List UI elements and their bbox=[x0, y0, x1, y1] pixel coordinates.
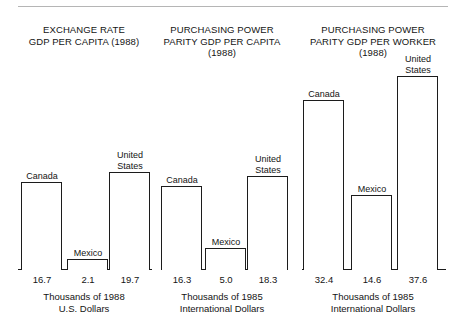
bar-label: Canada bbox=[154, 175, 210, 186]
bar-canada[interactable] bbox=[21, 182, 62, 270]
chart-panel-exchange-rate: EXCHANGE RATE GDP PER CAPITA (1988) Cana… bbox=[8, 0, 160, 330]
bar-mexico[interactable] bbox=[351, 195, 392, 270]
bar-label: Mexico bbox=[198, 237, 254, 248]
bar-label: United States bbox=[240, 154, 296, 175]
bar-canada[interactable] bbox=[161, 186, 202, 270]
bar-canada[interactable] bbox=[303, 100, 344, 270]
bar-label: Mexico bbox=[60, 248, 116, 259]
bar-label: Mexico bbox=[344, 184, 400, 195]
bar-label: United States bbox=[390, 54, 446, 75]
value-label: 19.7 bbox=[102, 274, 158, 285]
bar-label: United States bbox=[102, 150, 158, 171]
bar-united-states[interactable] bbox=[397, 76, 438, 270]
axis-caption: Thousands of 1988 U.S. Dollars bbox=[8, 291, 160, 314]
bar-mexico[interactable] bbox=[205, 248, 246, 270]
bar-label: Canada bbox=[14, 171, 70, 182]
plot-area: Canada Mexico United States bbox=[292, 40, 454, 270]
bar-united-states[interactable] bbox=[109, 172, 150, 270]
axis-caption: Thousands of 1985 International Dollars bbox=[292, 291, 454, 314]
value-label: 37.6 bbox=[390, 274, 446, 285]
plot-area: Canada Mexico United States bbox=[152, 40, 292, 270]
chart-panel-ppp-per-worker: PURCHASING POWER PARITY GDP PER WORKER (… bbox=[292, 0, 454, 330]
axis-caption: Thousands of 1985 International Dollars bbox=[152, 291, 292, 314]
value-label: 18.3 bbox=[240, 274, 296, 285]
chart-figure: EXCHANGE RATE GDP PER CAPITA (1988) Cana… bbox=[0, 0, 457, 330]
chart-panel-ppp-per-capita: PURCHASING POWER PARITY GDP PER CAPITA (… bbox=[152, 0, 292, 330]
bar-united-states[interactable] bbox=[247, 176, 288, 270]
plot-area: Canada Mexico United States bbox=[8, 40, 160, 270]
bar-mexico[interactable] bbox=[67, 259, 108, 270]
bar-label: Canada bbox=[296, 89, 352, 100]
